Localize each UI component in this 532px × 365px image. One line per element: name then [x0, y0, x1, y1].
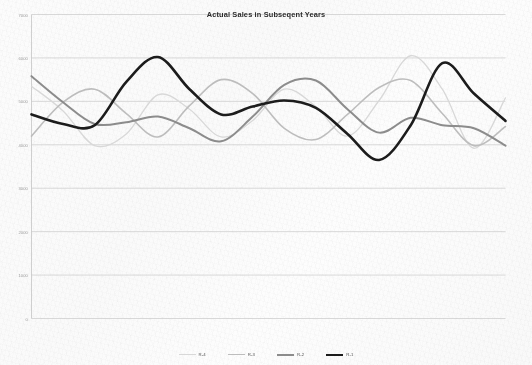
- gridlines: [32, 15, 506, 319]
- y-tick-label: 2000: [18, 229, 28, 234]
- legend-item-r-2[interactable]: R-2: [277, 352, 304, 357]
- legend-label: R-4: [199, 352, 206, 357]
- y-tick-label: 5000: [18, 99, 28, 104]
- y-axis: 01000200030004000500060007000: [2, 0, 28, 365]
- legend-swatch-icon: [277, 354, 294, 356]
- y-tick-label: 3000: [18, 186, 28, 191]
- legend-label: R-1: [346, 352, 353, 357]
- legend-swatch-icon: [228, 354, 245, 355]
- chart-title: Actual Sales in Subseqent Years: [0, 10, 532, 19]
- y-tick-label: 6000: [18, 55, 28, 60]
- legend-label: R-2: [297, 352, 304, 357]
- y-tick-label: 7000: [18, 12, 28, 17]
- series-line-r-3: [32, 79, 506, 146]
- legend-item-r-4[interactable]: R-4: [179, 352, 206, 357]
- y-tick-label: 0: [26, 316, 28, 321]
- series-lines: [32, 56, 506, 160]
- legend-swatch-icon: [326, 354, 343, 356]
- y-tick-label: 1000: [18, 273, 28, 278]
- legend-item-r-1[interactable]: R-1: [326, 352, 353, 357]
- legend-label: R-3: [248, 352, 255, 357]
- legend-swatch-icon: [179, 354, 196, 355]
- chart-container: Actual Sales in Subseqent Years 01000200…: [0, 0, 532, 365]
- legend-item-r-3[interactable]: R-3: [228, 352, 255, 357]
- chart-legend: R-4R-3R-2R-1: [0, 352, 532, 357]
- plot-canvas: [0, 0, 532, 365]
- y-tick-label: 4000: [18, 142, 28, 147]
